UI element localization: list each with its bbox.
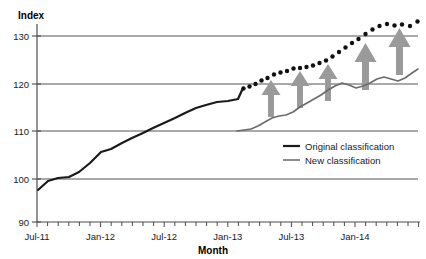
x-axis-tick-labels: Jul-11 Jan-12 Jul-12 Jan-13 Jul-13 Jan-1… (24, 231, 369, 242)
chart-container: 130 120 110 100 90 Index Jul-11 Jan-12 J… (0, 0, 426, 259)
x-tick-jul-12: Jul-12 (151, 231, 177, 242)
legend-label-new: New classification (305, 155, 381, 166)
x-axis-title: Month (198, 245, 228, 256)
x-tick-jan-13: Jan-13 (213, 231, 242, 242)
x-tick-jul-11: Jul-11 (24, 231, 49, 242)
y-axis-title: Index (18, 10, 45, 21)
y-tick-90: 90 (18, 217, 29, 228)
chart-legend: Original classification New classificati… (283, 141, 394, 166)
y-tick-110: 110 (14, 126, 29, 137)
legend-item-original: Original classification (283, 141, 394, 152)
up-arrow-4 (355, 43, 377, 90)
up-arrow-1 (262, 80, 281, 117)
y-tick-120: 120 (13, 79, 29, 90)
x-tick-jan-12: Jan-12 (86, 231, 115, 242)
y-tick-130: 130 (13, 31, 29, 42)
y-tick-100: 100 (13, 174, 29, 185)
x-tick-jul-13: Jul-13 (278, 231, 304, 242)
index-line-chart: 130 120 110 100 90 Index Jul-11 Jan-12 J… (0, 0, 426, 259)
x-tick-jan-14: Jan-14 (340, 231, 369, 242)
series-original-classification (38, 88, 243, 190)
y-axis-tick-labels: 130 120 110 100 90 (13, 31, 29, 228)
annotation-arrows (262, 28, 411, 117)
up-arrow-5 (389, 28, 411, 75)
x-axis-ticks (37, 222, 419, 227)
legend-item-new: New classification (283, 155, 381, 166)
legend-label-original: Original classification (305, 141, 394, 152)
